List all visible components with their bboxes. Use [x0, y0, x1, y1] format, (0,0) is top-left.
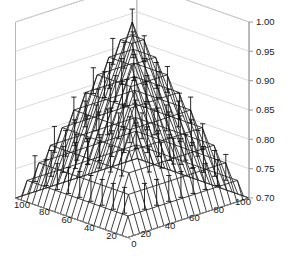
- y-tick-label-2: 60: [189, 212, 200, 223]
- x-tick-label-4: 80: [39, 206, 50, 217]
- z-tick-label-4: 0.90: [256, 75, 275, 86]
- z-tick-label-6: 1.00: [256, 16, 275, 27]
- y-tick-label-1: 80: [213, 204, 224, 215]
- y-tick-label-3: 40: [165, 220, 176, 231]
- z-tick-label-3: 0.85: [256, 104, 275, 115]
- x-tick-label-1: 20: [106, 230, 117, 241]
- z-tick-label-0: 0.70: [256, 192, 275, 203]
- z-tick-label-5: 0.95: [256, 46, 275, 57]
- figure-canvas: 0.700.750.800.850.900.951.00100806040200…: [0, 0, 290, 274]
- surface-plot-3d: 0.700.750.800.850.900.951.00100806040200…: [0, 0, 290, 274]
- x-tick-label-2: 40: [84, 222, 95, 233]
- z-tick-label-1: 0.75: [256, 163, 275, 174]
- x-tick-label-3: 60: [62, 214, 73, 225]
- x-tick-label-5: 100: [14, 199, 30, 210]
- x-tick-label-0: 0: [131, 238, 136, 249]
- z-tick-label-2: 0.80: [256, 134, 275, 145]
- y-tick-label-4: 20: [141, 228, 152, 239]
- y-tick-label-0: 100: [235, 196, 251, 207]
